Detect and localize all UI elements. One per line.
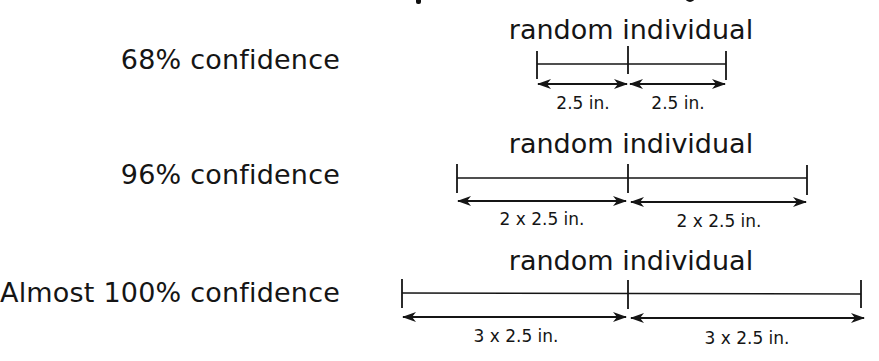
row-1-left-segment-label: 2.5 in. — [556, 93, 609, 113]
row-2-right-segment-label: 2 x 2.5 in. — [676, 211, 761, 231]
row-2-interval — [457, 164, 807, 202]
row-1-right-segment-label: 2.5 in. — [651, 93, 704, 113]
row-3-interval — [402, 279, 864, 318]
row-3-baseline — [402, 293, 861, 294]
row-1-interval — [537, 46, 726, 84]
row-3-right-segment-label: 3 x 2.5 in. — [704, 328, 789, 348]
row-2-left-segment-label: 2 x 2.5 in. — [499, 209, 584, 229]
row-3-left-segment-label: 3 x 2.5 in. — [473, 326, 558, 346]
confidence-interval-diagram — [0, 0, 879, 361]
